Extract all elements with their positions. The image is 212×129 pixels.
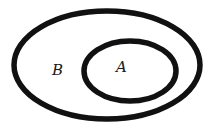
set-b-label: B	[51, 61, 63, 79]
set-a-label: A	[114, 58, 127, 76]
set-b-ellipse	[14, 11, 200, 119]
venn-diagram: B A	[0, 0, 212, 129]
set-a-ellipse	[84, 41, 176, 101]
